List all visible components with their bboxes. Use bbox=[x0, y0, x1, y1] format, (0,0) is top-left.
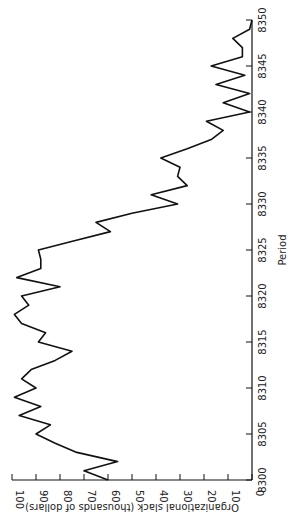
line-chart: 0102030405060708090100830083058310831583… bbox=[0, 0, 300, 520]
axis-labels: 0102030405060708090100830083058310831583… bbox=[14, 7, 288, 513]
value-axis-title: Organizational slack (thousands of dolla… bbox=[25, 502, 239, 513]
value-tick-label: 50 bbox=[134, 490, 145, 503]
value-tick-label: 40 bbox=[158, 490, 169, 503]
slack-series-line bbox=[14, 20, 252, 480]
value-tick-label: 20 bbox=[206, 490, 217, 503]
period-tick-label: 8325 bbox=[257, 237, 268, 262]
period-tick-label: 8340 bbox=[257, 99, 268, 124]
period-tick-label: 8345 bbox=[257, 53, 268, 78]
axes bbox=[12, 20, 252, 480]
period-tick-label: 8300 bbox=[257, 467, 268, 492]
value-tick-label: 90 bbox=[38, 490, 49, 503]
period-tick-label: 8315 bbox=[257, 329, 268, 354]
value-tick-label: 80 bbox=[62, 490, 73, 503]
value-tick-label: 10 bbox=[230, 490, 241, 503]
value-tick-label: 60 bbox=[110, 490, 121, 503]
period-tick-label: 8330 bbox=[257, 191, 268, 216]
value-tick-label: 70 bbox=[86, 490, 97, 503]
period-tick-label: 8305 bbox=[257, 421, 268, 446]
period-tick-label: 8335 bbox=[257, 145, 268, 170]
period-tick-label: 8320 bbox=[257, 283, 268, 308]
period-axis-title: Period bbox=[277, 234, 288, 265]
period-tick-label: 8350 bbox=[257, 7, 268, 32]
period-tick-label: 8310 bbox=[257, 375, 268, 400]
value-tick-label: 30 bbox=[182, 490, 193, 503]
value-tick-label: 100 bbox=[14, 490, 25, 509]
